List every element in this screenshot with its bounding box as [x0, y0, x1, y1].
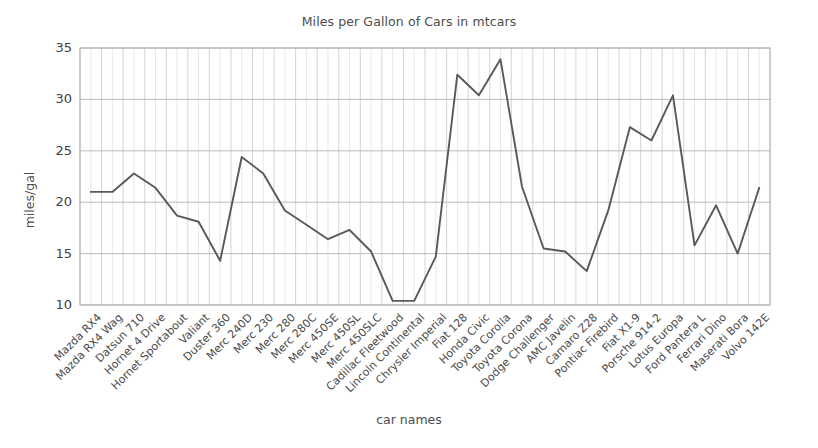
chart-figure: Miles per Gallon of Cars in mtcars miles… [0, 0, 818, 448]
y-tick-label: 10 [32, 297, 72, 312]
y-tick-label: 30 [32, 91, 72, 106]
y-tick-label: 35 [32, 40, 72, 55]
y-tick-label: 15 [32, 246, 72, 261]
gridlines [80, 48, 770, 305]
y-tick-label: 20 [32, 194, 72, 209]
y-tick-label: 25 [32, 143, 72, 158]
